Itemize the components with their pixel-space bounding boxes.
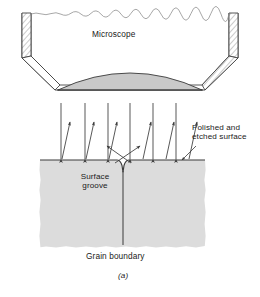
microscope-label: Microscope: [92, 30, 135, 40]
specimen-block: [39, 160, 205, 248]
reflected-ray-1: [62, 122, 70, 159]
surface-groove-label: Surface groove: [72, 172, 118, 191]
incident-rays: [61, 103, 176, 159]
reflected-ray-2: [86, 122, 94, 159]
microscope-wall-hatch-left: [22, 13, 31, 58]
microscope-wall-hatch-right: [229, 13, 238, 58]
metallography-figure: Microscope Polished and etched surface S…: [0, 0, 260, 297]
reflected-ray-5: [166, 122, 174, 159]
reflected-ray-3: [109, 122, 117, 159]
figure-caption: (a): [118, 271, 128, 280]
reflected-ray-4: [143, 122, 151, 159]
polished-etched-surface-label: Polished and etched surface: [192, 123, 247, 142]
grain-boundary-label: Grain boundary: [86, 252, 145, 262]
microscope-assembly: [22, 6, 238, 90]
